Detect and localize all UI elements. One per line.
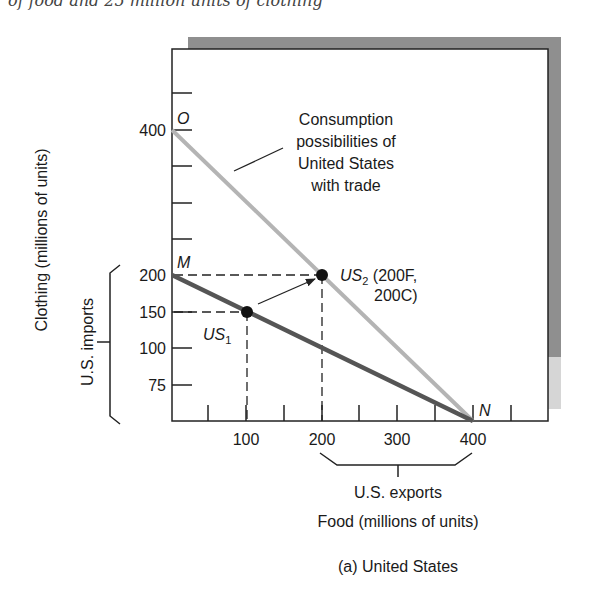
frame-shadow-top xyxy=(188,37,561,50)
frame-shadow-right xyxy=(548,37,561,357)
x-tick-100: 100 xyxy=(233,431,260,448)
chart: 400 200 150 100 75 100 200 300 400 O M N… xyxy=(0,0,591,606)
y-axis-title: Clothing (millions of units) xyxy=(33,148,50,331)
label-o: O xyxy=(177,110,189,127)
frame-shadow-right-fade xyxy=(548,357,561,409)
x-tick-300: 300 xyxy=(384,431,411,448)
x-axis-title: Food (millions of units) xyxy=(318,513,479,530)
y-tick-200: 200 xyxy=(139,267,166,284)
label-us2-coords: 200C) xyxy=(374,287,418,304)
y-tick-400: 400 xyxy=(139,122,166,139)
y-tick-150: 150 xyxy=(139,304,166,321)
label-m: M xyxy=(177,254,191,271)
x-tick-200: 200 xyxy=(309,431,336,448)
chart-caption: (a) United States xyxy=(338,558,458,575)
exports-bracket xyxy=(320,453,472,477)
y-tick-100: 100 xyxy=(139,340,166,357)
exports-label: U.S. exports xyxy=(354,484,442,501)
imports-bracket xyxy=(97,265,120,424)
point-us2 xyxy=(316,269,328,281)
imports-label: U.S. imports xyxy=(79,298,96,386)
x-tick-400: 400 xyxy=(460,431,487,448)
annotation-line-2: possibilities of xyxy=(296,133,396,150)
annotation-line-1: Consumption xyxy=(299,111,393,128)
point-us1 xyxy=(241,306,253,318)
label-n: N xyxy=(479,402,491,419)
y-tick-75: 75 xyxy=(148,377,166,394)
annotation-line-3: United States xyxy=(298,155,394,172)
annotation-line-4: with trade xyxy=(310,177,380,194)
